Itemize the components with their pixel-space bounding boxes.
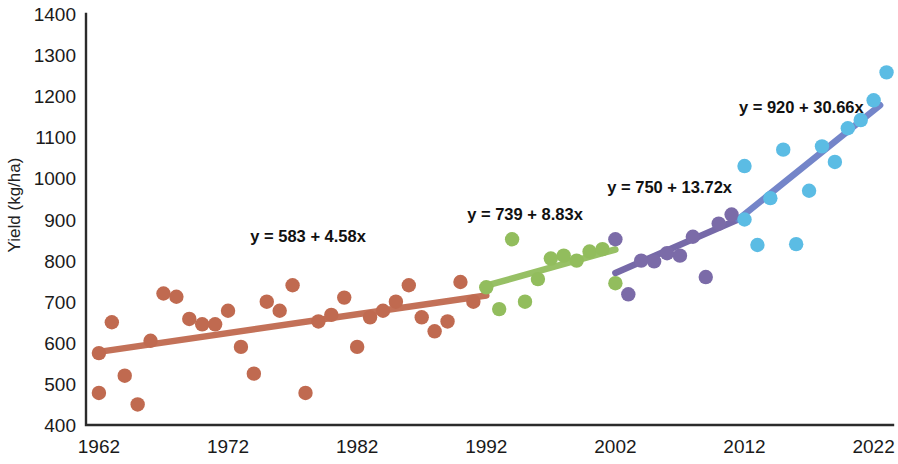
data-point — [453, 275, 467, 289]
data-point — [389, 295, 403, 309]
data-point — [221, 304, 235, 318]
data-point — [363, 310, 377, 324]
chart-container: 40050060070080090010001100120013001400 1… — [0, 0, 898, 464]
y-tick-label: 600 — [44, 333, 76, 354]
data-point — [879, 65, 893, 79]
data-point — [582, 244, 596, 258]
data-point — [350, 340, 364, 354]
data-point — [634, 253, 648, 267]
y-tick-label: 500 — [44, 374, 76, 395]
y-tick-label: 1200 — [34, 86, 76, 107]
data-point — [866, 93, 880, 107]
data-point — [427, 324, 441, 338]
data-point — [595, 242, 609, 256]
data-point — [737, 159, 751, 173]
data-point — [841, 121, 855, 135]
trend-lines — [99, 105, 880, 352]
data-point — [92, 386, 106, 400]
data-points — [92, 65, 894, 411]
data-point — [118, 368, 132, 382]
data-point — [143, 334, 157, 348]
data-point — [686, 230, 700, 244]
data-point — [750, 238, 764, 252]
y-tick-label: 1000 — [34, 168, 76, 189]
data-point — [544, 251, 558, 265]
x-tick-label: 2002 — [594, 436, 636, 457]
data-point — [505, 232, 519, 246]
equation-label: y = 920 + 30.66x — [739, 98, 865, 116]
data-point — [156, 286, 170, 300]
data-point — [608, 276, 622, 290]
data-point — [169, 290, 183, 304]
y-tick-label: 1100 — [35, 127, 76, 148]
x-tick-label: 2012 — [723, 436, 765, 457]
data-point — [828, 155, 842, 169]
data-point — [608, 232, 622, 246]
x-tick-label: 2022 — [852, 436, 894, 457]
data-point — [311, 314, 325, 328]
data-point — [285, 278, 299, 292]
data-point — [531, 272, 545, 286]
x-tick-label: 1992 — [465, 436, 507, 457]
equation-annotations: y = 583 + 4.58xy = 739 + 8.83xy = 750 + … — [250, 98, 864, 245]
equation-label: y = 583 + 4.58x — [250, 227, 366, 245]
series-period1 — [92, 275, 481, 412]
data-point — [337, 290, 351, 304]
data-point — [105, 315, 119, 329]
data-point — [324, 308, 338, 322]
data-point — [272, 304, 286, 318]
data-point — [415, 310, 429, 324]
data-point — [569, 253, 583, 267]
y-tick-label: 1300 — [34, 45, 76, 66]
data-point — [298, 386, 312, 400]
data-point — [247, 366, 261, 380]
x-tick-label: 1982 — [336, 436, 378, 457]
data-point — [92, 346, 106, 360]
x-tick-labels: 1962197219821992200220122022 — [78, 436, 895, 457]
data-point — [802, 184, 816, 198]
series-period2 — [479, 232, 623, 316]
data-point — [440, 314, 454, 328]
data-point — [557, 248, 571, 262]
data-point — [673, 248, 687, 262]
y-tick-label: 700 — [44, 292, 76, 313]
data-point — [699, 270, 713, 284]
data-point — [402, 278, 416, 292]
data-point — [711, 216, 725, 230]
data-point — [776, 142, 790, 156]
y-tick-label: 800 — [44, 251, 76, 272]
data-point — [182, 312, 196, 326]
data-point — [466, 295, 480, 309]
y-axis-title: Yield (kg/ha) — [5, 158, 24, 253]
data-point — [376, 304, 390, 318]
y-tick-label: 400 — [44, 415, 76, 436]
data-point — [647, 254, 661, 268]
data-point — [260, 295, 274, 309]
data-point — [789, 237, 803, 251]
y-tick-label: 900 — [44, 210, 76, 231]
data-point — [815, 139, 829, 153]
data-point — [130, 397, 144, 411]
data-point — [660, 246, 674, 260]
data-point — [621, 287, 635, 301]
data-point — [195, 317, 209, 331]
data-point — [724, 207, 738, 221]
y-tick-labels: 40050060070080090010001100120013001400 — [34, 4, 76, 436]
data-point — [763, 191, 777, 205]
y-tick-label: 1400 — [34, 4, 76, 25]
x-tick-label: 1972 — [207, 436, 249, 457]
y-axis-label: Yield (kg/ha) — [5, 158, 24, 253]
data-point — [234, 340, 248, 354]
x-tick-label: 1962 — [78, 436, 120, 457]
equation-label: y = 739 + 8.83x — [467, 205, 583, 223]
data-point — [518, 295, 532, 309]
data-point — [479, 280, 493, 294]
equation-label: y = 750 + 13.72x — [607, 178, 733, 196]
data-point — [492, 302, 506, 316]
data-point — [208, 317, 222, 331]
scatter-plot: 40050060070080090010001100120013001400 1… — [0, 0, 898, 464]
series-period3 — [608, 207, 739, 301]
data-point — [737, 212, 751, 226]
